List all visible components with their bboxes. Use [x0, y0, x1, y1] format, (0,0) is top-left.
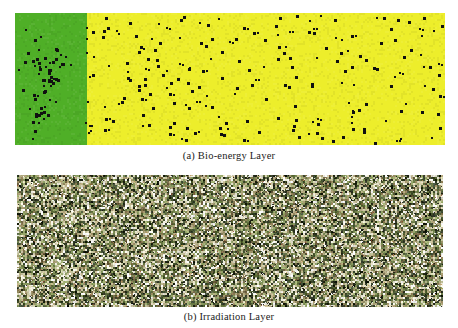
- figure-page: (a) Bio-energy Layer (b) Irradiation Lay…: [0, 0, 458, 328]
- bio-energy-layer-caption: (a) Bio-energy Layer: [0, 150, 458, 161]
- irradiation-layer-caption: (b) Irradiation Layer: [0, 311, 458, 322]
- irradiation-layer-panel: [17, 175, 443, 307]
- bio-energy-layer-image: [15, 13, 445, 145]
- irradiation-layer-image: [17, 175, 443, 307]
- bio-energy-layer-panel: [15, 13, 445, 145]
